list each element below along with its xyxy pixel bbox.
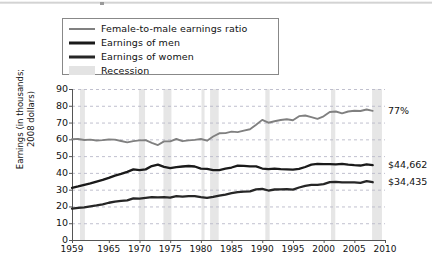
y-tick-label: 10 [42, 218, 68, 228]
legend-label-men: Earnings of men [101, 36, 180, 49]
legend-item-ratio: Female-to-male earnings ratio [67, 22, 278, 35]
x-axis-ticks: 1959196519701975198019851990199520002005… [0, 244, 432, 258]
legend-swatch-recession-band-icon [67, 64, 97, 77]
annotation-men-end: $44,662 [388, 160, 427, 170]
y-tick-label: 80 [42, 101, 68, 111]
y-tick-label: 30 [42, 185, 68, 195]
legend-item-women: Earnings of women [67, 50, 278, 63]
y-tick-label: 20 [42, 201, 68, 211]
y-axis-title: Earnings (in thousands; 2008 dollars) [15, 49, 37, 189]
y-tick-label: 60 [42, 134, 68, 144]
annotation-ratio-end: 77% [388, 106, 409, 116]
x-tick-label: 2010 [365, 244, 405, 254]
y-tick-label: 70 [42, 118, 68, 128]
annotation-women-end: $34,435 [388, 177, 427, 187]
legend-item-men: Earnings of men [67, 36, 278, 49]
chart-legend: Female-to-male earnings ratio Earnings o… [62, 18, 279, 75]
y-tick-label: 90 [42, 84, 68, 94]
legend-item-recession: Recession [67, 64, 278, 77]
chart-figure: Earnings (in thousands; 2008 dollars) 01… [0, 0, 432, 280]
legend-swatch-men-line-icon [67, 36, 97, 49]
legend-swatch-women-line-icon [67, 50, 97, 63]
legend-swatch-ratio-line-icon [67, 22, 97, 35]
legend-label-recession: Recession [101, 64, 149, 77]
x-tick-label: 1959 [52, 244, 92, 254]
legend-label-ratio: Female-to-male earnings ratio [101, 22, 247, 35]
y-tick-label: 40 [42, 168, 68, 178]
y-tick-label: 50 [42, 151, 68, 161]
legend-label-women: Earnings of women [101, 50, 194, 63]
